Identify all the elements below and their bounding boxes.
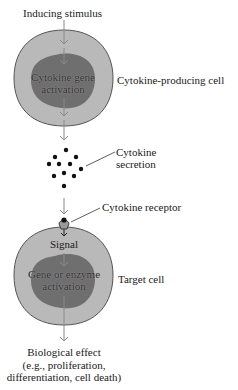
target-nucleus-line1: Gene or enzyme xyxy=(22,268,106,280)
cytokine-molecules xyxy=(47,148,83,188)
producing-nucleus-line2: activation xyxy=(28,83,98,95)
biological-effect-label: Biological effect (e.g., proliferation, … xyxy=(0,346,128,384)
receptor-label: Cytokine receptor xyxy=(102,201,181,213)
producing-nucleus-line1: Cytokine gene xyxy=(28,71,98,83)
secretion-leader-line xyxy=(86,152,115,166)
receptor-leader-line xyxy=(71,208,100,222)
pathway-diagram xyxy=(0,0,238,390)
target-nucleus-line2: activation xyxy=(22,280,106,292)
inducing-stimulus-label: Inducing stimulus xyxy=(23,7,102,19)
effect-line1: Biological effect xyxy=(0,346,128,359)
producing-nucleus-label: Cytokine gene activation xyxy=(28,71,98,95)
effect-line3: differentiation, cell death) xyxy=(0,371,128,384)
arrow-icon xyxy=(60,198,68,214)
effect-line2: (e.g., proliferation, xyxy=(0,359,128,372)
secretion-line1: Cytokine xyxy=(116,146,156,158)
secretion-line2: secretion xyxy=(116,158,156,170)
target-nucleus-label: Gene or enzyme activation xyxy=(22,268,106,292)
secretion-label: Cytokine secretion xyxy=(116,146,156,170)
producing-cell-label: Cytokine-producing cell xyxy=(117,74,224,86)
signal-label: Signal xyxy=(44,238,84,250)
target-cell-label: Target cell xyxy=(118,273,164,285)
